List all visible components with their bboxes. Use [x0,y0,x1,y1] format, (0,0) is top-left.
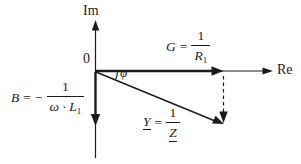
susceptance-formula: B = − 1 ω · L1 [11,80,84,116]
im-axis-arrowhead-icon [92,20,99,31]
resistance-subscript: 1 [203,55,208,65]
admittance-fraction: 1 Z [166,106,180,139]
susceptance-vector-arrowhead-icon [91,114,100,126]
susceptance-fraction: 1 ω · L1 [47,80,85,116]
admittance-phasor-diagram: Im Re 0 φ G = 1 R1 B = − 1 ω · L1 Y = 1 … [0,0,301,164]
origin-label: 0 [83,52,90,66]
fraction-numerator: 1 [167,106,180,122]
susceptance-symbol: B [11,91,19,105]
minus-sign: − [35,91,43,105]
inductance-subscript: 1 [77,106,82,116]
equals-sign: = [23,91,31,105]
im-axis-label: Im [83,4,99,18]
fraction-numerator: 1 [59,80,72,96]
re-axis-label: Re [277,63,293,77]
phase-angle-label: φ [120,66,127,79]
resistance-symbol: R [194,48,202,63]
equals-sign: = [155,116,163,130]
fraction-denominator: Z [166,123,180,140]
impedance-symbol: Z [169,125,177,142]
phase-angle-arc [116,71,118,80]
equals-sign: = [180,40,188,54]
conductance-formula: G = 1 R1 [166,29,210,65]
fraction-denominator: ω · L1 [47,97,85,116]
admittance-symbol: Y [143,115,151,131]
conductance-fraction: 1 R1 [191,29,210,65]
conductance-vector-arrowhead-icon [212,66,224,75]
re-axis-arrowhead-icon [263,67,274,74]
fraction-numerator: 1 [194,29,207,45]
omega-inductance-symbol: ω · L [50,99,77,114]
fraction-denominator: R1 [191,46,210,65]
admittance-formula: Y = 1 Z [143,106,180,139]
conductance-symbol: G [166,40,176,54]
